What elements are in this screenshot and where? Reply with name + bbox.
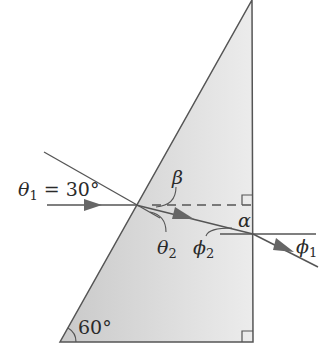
beta-label: β [172,168,183,187]
alpha-label: α [238,211,251,230]
phi1-label: ϕ1 [296,237,317,259]
apex-angle-label: 60° [78,318,112,337]
phi2-label: ϕ2 [193,238,214,260]
arrow-icon [273,238,294,252]
prism [60,0,253,342]
theta2-label: θ2 [157,238,177,260]
theta1-label: θ1 = 30° [18,180,99,202]
